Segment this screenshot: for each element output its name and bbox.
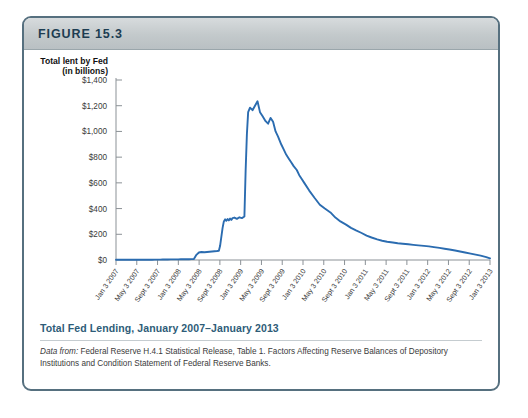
- source-note: Data from: Federal Reserve H.4.1 Statist…: [40, 346, 482, 370]
- line-chart: Total lent by Fed(in billions)$0$200$400…: [24, 50, 500, 318]
- figure-box: FIGURE 15.3 Total lent by Fed(in billion…: [22, 16, 500, 391]
- y-axis-title-line2: (in billions): [62, 66, 108, 76]
- y-axis-title-line1: Total lent by Fed: [40, 56, 108, 66]
- y-tick-label: $400: [89, 205, 108, 214]
- source-divider: [40, 340, 482, 341]
- caption-area: Total Fed Lending, January 2007–January …: [24, 318, 498, 370]
- chart-caption: Total Fed Lending, January 2007–January …: [40, 322, 482, 334]
- data-series-line: [116, 101, 490, 260]
- y-tick-label: $800: [89, 153, 108, 162]
- y-tick-label: $200: [89, 230, 108, 239]
- source-prefix: Data from:: [40, 347, 78, 356]
- chart-plot-area: Total lent by Fed(in billions)$0$200$400…: [24, 50, 500, 318]
- source-text: Federal Reserve H.4.1 Statistical Releas…: [40, 347, 448, 368]
- y-tick-label: $1,400: [82, 76, 107, 85]
- y-tick-label: $1,200: [82, 102, 107, 111]
- y-tick-label: $1,000: [82, 127, 107, 136]
- y-tick-label: $0: [98, 256, 108, 265]
- figure-header: FIGURE 15.3: [24, 18, 498, 50]
- figure-label: FIGURE 15.3: [38, 27, 123, 41]
- y-tick-label: $600: [89, 179, 108, 188]
